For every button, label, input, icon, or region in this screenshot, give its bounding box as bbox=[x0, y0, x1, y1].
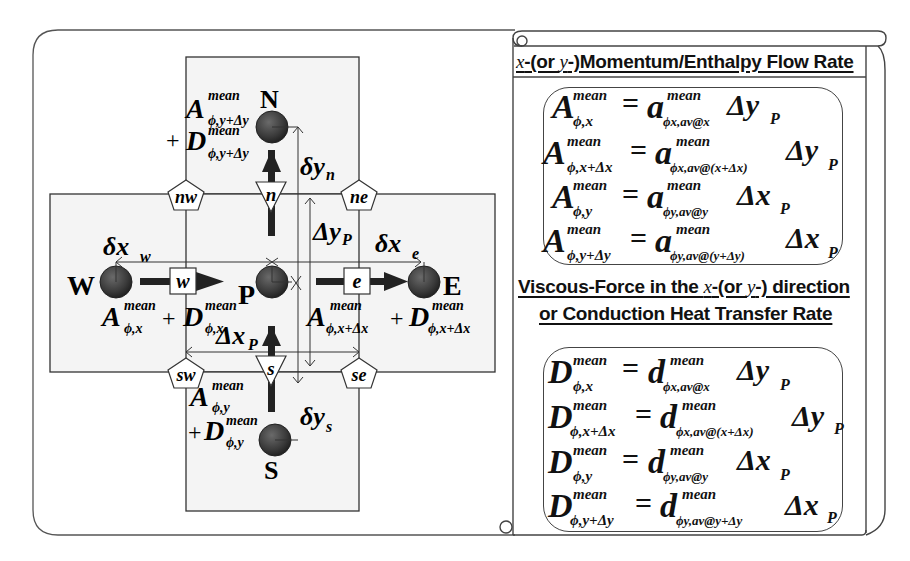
svg-text:P: P bbox=[833, 420, 844, 437]
svg-text:ϕy,av@(y+Δy): ϕy,av@(y+Δy) bbox=[670, 248, 745, 263]
svg-text:ϕx,av@x: ϕx,av@x bbox=[663, 379, 710, 394]
svg-text:mean: mean bbox=[670, 352, 704, 368]
svg-text:mean: mean bbox=[670, 442, 704, 458]
svg-text:ϕ,x+Δx: ϕ,x+Δx bbox=[570, 423, 616, 439]
svg-text:A: A bbox=[541, 134, 566, 171]
svg-text:ϕ,x: ϕ,x bbox=[573, 378, 593, 394]
svg-text:mean: mean bbox=[573, 442, 607, 458]
svg-text:=: = bbox=[635, 397, 652, 430]
svg-text:mean: mean bbox=[682, 486, 716, 502]
svg-text:ϕx,av@(x+Δx): ϕx,av@(x+Δx) bbox=[676, 424, 754, 439]
svg-text:P: P bbox=[779, 466, 790, 483]
svg-text:mean: mean bbox=[676, 221, 710, 237]
svg-text:Δx: Δx bbox=[736, 178, 771, 211]
svg-text:P: P bbox=[769, 110, 780, 127]
svg-text:ϕ,y: ϕ,y bbox=[573, 468, 592, 484]
equation-A-x-plus-dx: A mean ϕ,x+Δx = a mean ϕx,av@(x+Δx) Δy P bbox=[541, 133, 838, 175]
svg-text:mean: mean bbox=[667, 87, 701, 103]
svg-text:=: = bbox=[630, 221, 647, 254]
svg-text:A: A bbox=[541, 222, 566, 259]
svg-text:a: a bbox=[647, 88, 664, 125]
svg-text:Δy: Δy bbox=[736, 353, 770, 386]
equation-D-y-plus-dy: D mean ϕ,y+Δy = d mean ϕy,av@y+Δy Δx P bbox=[547, 486, 837, 528]
svg-text:D: D bbox=[547, 398, 573, 435]
svg-text:P: P bbox=[827, 156, 838, 173]
svg-text:ϕy,av@y: ϕy,av@y bbox=[663, 469, 708, 484]
svg-text:D: D bbox=[547, 353, 573, 390]
equation-D-y: D mean ϕ,y = d mean ϕy,av@y Δx P bbox=[547, 442, 790, 484]
svg-text:ϕ,x+Δx: ϕ,x+Δx bbox=[567, 159, 613, 175]
svg-text:mean: mean bbox=[676, 133, 710, 149]
svg-text:=: = bbox=[622, 177, 639, 210]
equation-A-x: A mean ϕ,x = a mean ϕx,av@x Δy P bbox=[550, 86, 780, 129]
svg-text:Δy: Δy bbox=[785, 133, 819, 166]
equation-A-y: A mean ϕ,y = a mean ϕy,av@y Δx P bbox=[550, 177, 790, 219]
svg-text:mean: mean bbox=[667, 177, 701, 193]
svg-text:P: P bbox=[827, 244, 838, 261]
svg-text:ϕ,x: ϕ,x bbox=[573, 113, 593, 129]
svg-text:=: = bbox=[622, 86, 639, 119]
svg-text:mean: mean bbox=[573, 486, 607, 502]
svg-text:ϕ,y+Δy: ϕ,y+Δy bbox=[567, 247, 611, 263]
svg-text:ϕ,y+Δy: ϕ,y+Δy bbox=[570, 512, 614, 528]
svg-text:mean: mean bbox=[567, 133, 601, 149]
svg-text:mean: mean bbox=[573, 177, 607, 193]
svg-text:=: = bbox=[622, 351, 639, 384]
svg-text:P: P bbox=[779, 200, 790, 217]
svg-text:ϕx,av@(x+Δx): ϕx,av@(x+Δx) bbox=[670, 160, 748, 175]
equation-A-y-plus-dy: A mean ϕ,y+Δy = a mean ϕy,av@(y+Δy) Δx P bbox=[541, 221, 838, 263]
equations-layer: A mean ϕ,x = a mean ϕx,av@x Δy P A mean … bbox=[0, 0, 910, 561]
svg-text:mean: mean bbox=[573, 87, 607, 103]
svg-text:P: P bbox=[826, 509, 837, 526]
equation-D-x: D mean ϕ,x = d mean ϕx,av@x Δy P bbox=[547, 351, 790, 394]
svg-text:Δx: Δx bbox=[784, 488, 819, 521]
svg-text:mean: mean bbox=[573, 397, 607, 413]
svg-text:D: D bbox=[547, 487, 573, 524]
svg-text:Δx: Δx bbox=[785, 221, 820, 254]
svg-text:ϕx,av@x: ϕx,av@x bbox=[663, 114, 710, 129]
svg-text:=: = bbox=[622, 442, 639, 475]
svg-text:=: = bbox=[635, 486, 652, 519]
svg-text:ϕy,av@y: ϕy,av@y bbox=[663, 204, 708, 219]
svg-text:=: = bbox=[630, 133, 647, 166]
svg-text:ϕ,y: ϕ,y bbox=[573, 203, 592, 219]
svg-text:Δy: Δy bbox=[791, 399, 825, 432]
svg-text:mean: mean bbox=[682, 397, 716, 413]
svg-text:Δx: Δx bbox=[736, 443, 771, 476]
svg-text:A: A bbox=[550, 88, 575, 125]
svg-text:D: D bbox=[547, 443, 573, 480]
svg-text:a: a bbox=[647, 178, 664, 215]
equation-D-x-plus-dx: D mean ϕ,x+Δx = d mean ϕx,av@(x+Δx) Δy P bbox=[547, 397, 844, 439]
svg-text:mean: mean bbox=[573, 352, 607, 368]
svg-text:mean: mean bbox=[567, 221, 601, 237]
svg-text:Δy: Δy bbox=[726, 88, 760, 121]
svg-text:P: P bbox=[779, 376, 790, 393]
svg-text:A: A bbox=[550, 178, 575, 215]
svg-text:ϕy,av@y+Δy: ϕy,av@y+Δy bbox=[676, 513, 742, 528]
